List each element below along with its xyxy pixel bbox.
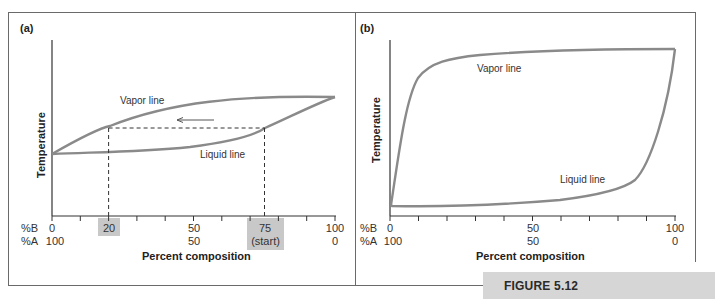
panel-b-row-a-label: %A (360, 235, 377, 247)
panel-b-tick-a-50: 50 (522, 235, 544, 247)
panel-b-tick-a-100: 100 (380, 235, 406, 247)
panel-b-liquid-line-label: Liquid line (560, 174, 605, 185)
panel-b-vapor-line-label: Vapor line (477, 63, 521, 74)
panel-b-tick-b-0: 0 (385, 222, 395, 234)
panel-b-x-axis-title: Percent composition (476, 250, 585, 262)
panel-b-tick-b-100: 100 (662, 222, 688, 234)
panel-b-plot (0, 0, 715, 299)
figure-number: FIGURE 5.12 (504, 279, 578, 293)
panel-b-tick-a-0: 0 (666, 235, 684, 247)
panel-b-tick-b-50: 50 (522, 222, 544, 234)
panel-b-row-b-label: %B (360, 222, 377, 234)
